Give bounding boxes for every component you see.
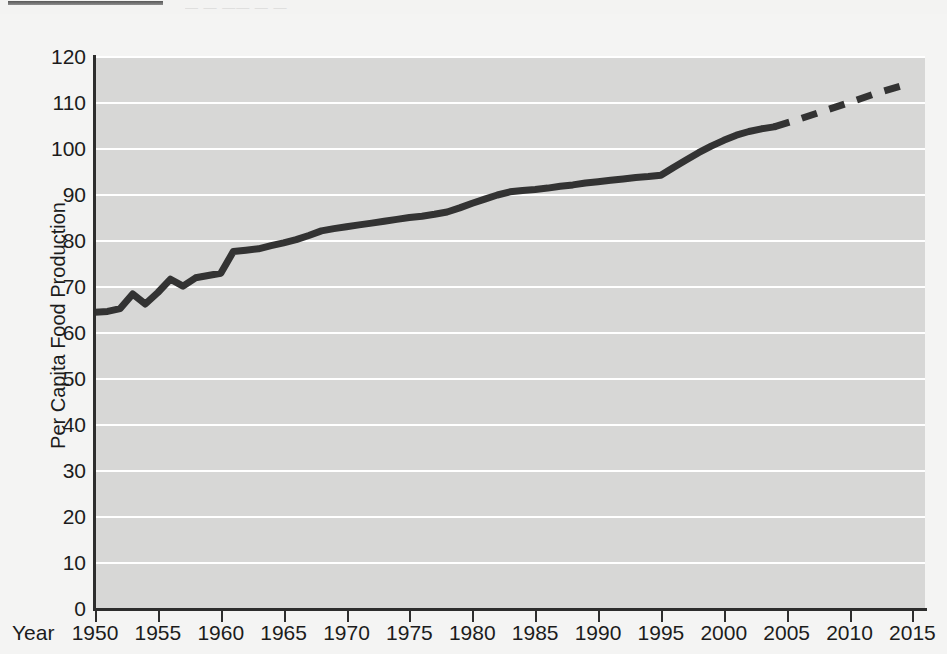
- caption-ghost-text: — — —— — —: [185, 0, 287, 11]
- data-series-layer: [95, 57, 925, 609]
- x-tick-1955: [158, 611, 160, 622]
- series-line-0: [95, 127, 774, 312]
- x-tick-2005: [787, 611, 789, 622]
- x-tick-1980: [472, 611, 474, 622]
- x-axis-line: [93, 608, 927, 611]
- x-tick-2015: [912, 611, 914, 622]
- x-tick-1995: [661, 611, 663, 622]
- x-tick-1975: [409, 611, 411, 622]
- x-tick-2010: [850, 611, 852, 622]
- x-tick-1965: [284, 611, 286, 622]
- caption-rule: [8, 1, 163, 5]
- x-tick-1960: [221, 611, 223, 622]
- x-tick-1985: [535, 611, 537, 622]
- x-axis-title: Year: [12, 621, 54, 645]
- cut-off-caption-strip: — — —— — —: [0, 0, 947, 13]
- chart-panel: 0102030405060708090100110120 Per Capita …: [0, 14, 947, 654]
- chart-page: — — —— — — 0102030405060708090100110120 …: [0, 0, 947, 654]
- x-tick-1950: [95, 611, 97, 622]
- x-tick-1970: [347, 611, 349, 622]
- x-axis-tick-labels: 1950195519601965197019751980198519901995…: [0, 621, 947, 654]
- x-tick-1990: [598, 611, 600, 622]
- series-line-1: [774, 85, 906, 127]
- x-tick-label-2015: 2015: [867, 621, 947, 645]
- y-axis-title-wrap: Per Capita Food Production: [26, 14, 56, 614]
- y-axis-line: [93, 55, 96, 611]
- x-tick-2000: [724, 611, 726, 622]
- y-axis-title: Per Capita Food Production: [47, 66, 70, 586]
